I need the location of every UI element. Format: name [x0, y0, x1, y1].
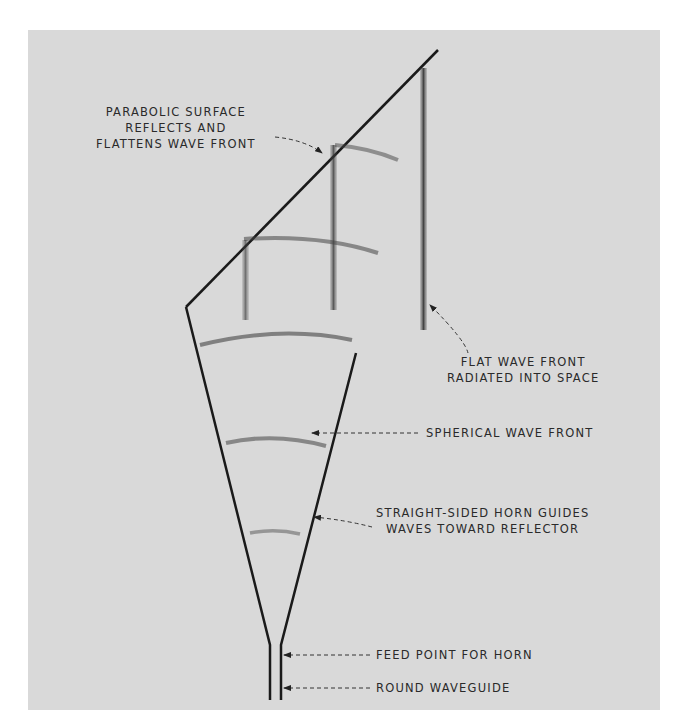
label-line: REFLECTS AND [96, 120, 256, 136]
reflected-wave-front-2 [244, 238, 378, 253]
label-flat-wave-front: FLAT WAVE FRONT RADIATED INTO SPACE [447, 354, 599, 386]
label-line: WAVES TOWARD REFLECTOR [376, 521, 589, 537]
reflected-wave-front-1 [335, 145, 398, 160]
label-spherical-wave-front: SPHERICAL WAVE FRONT [426, 425, 593, 441]
label-line: FLAT WAVE FRONT [447, 354, 599, 370]
flat-wave-front-outer [420, 68, 427, 330]
label-feed-point: FEED POINT FOR HORN [376, 647, 533, 663]
flat-wave-front-middle [330, 145, 337, 310]
spherical-wave-front-3 [250, 531, 300, 534]
spherical-wave-front-2 [226, 438, 326, 446]
spherical-wave-front-1 [200, 334, 352, 345]
leader-horn-guides [314, 517, 372, 527]
label-horn-guides: STRAIGHT-SIDED HORN GUIDES WAVES TOWARD … [376, 505, 589, 537]
flat-wave-front-inner [242, 240, 249, 320]
parabolic-reflector [186, 50, 438, 307]
horn-right-wall [281, 353, 356, 700]
leader-flat-wave [430, 305, 468, 353]
label-line: FLATTENS WAVE FRONT [96, 136, 256, 152]
horn-left-wall [186, 307, 270, 700]
leader-parabolic [275, 137, 322, 153]
label-line: STRAIGHT-SIDED HORN GUIDES [376, 505, 589, 521]
label-line: PARABOLIC SURFACE [96, 104, 256, 120]
label-parabolic-surface: PARABOLIC SURFACE REFLECTS AND FLATTENS … [96, 104, 256, 152]
label-line: RADIATED INTO SPACE [447, 370, 599, 386]
label-round-waveguide: ROUND WAVEGUIDE [376, 680, 510, 696]
